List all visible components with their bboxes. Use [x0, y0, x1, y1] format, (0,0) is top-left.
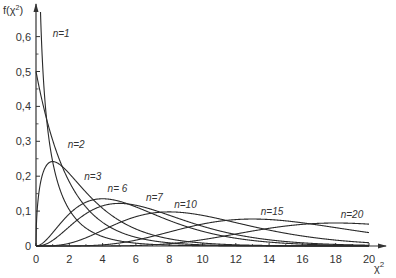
y-tick-label: 0,2 [16, 170, 31, 182]
x-axis-arrow-icon [378, 244, 387, 249]
y-tick-label: 0,1 [16, 205, 31, 217]
y-tick-label: 0,4 [16, 100, 31, 112]
y-tick-label: 0,3 [16, 135, 31, 147]
curve-label: n=10 [174, 199, 197, 210]
chi-square-chart: 0246810121416182000,10,20,30,40,50,6 n=1… [0, 0, 396, 278]
curve-label: n=2 [68, 139, 85, 150]
y-axis-arrow-icon [34, 3, 39, 12]
curve-label: n=15 [261, 206, 284, 217]
curve-label: n= 6 [108, 183, 128, 194]
curve-n-6 [36, 199, 369, 246]
x-tick-label: 4 [100, 253, 106, 265]
y-tick-label: 0 [25, 240, 31, 252]
y-axis-title: f(χ2) [3, 4, 23, 16]
x-tick-label: 14 [263, 253, 275, 265]
x-tick-label: 18 [330, 253, 342, 265]
curve-label: n=1 [53, 28, 70, 39]
y-tick-label: 0,6 [16, 31, 31, 43]
x-tick-label: 2 [66, 253, 72, 265]
x-tick-label: 16 [296, 253, 308, 265]
curve-labels: n=1n=2n=3n= 6n=7n=10n=15n=20 [53, 28, 364, 220]
curve-n-2 [36, 72, 369, 246]
y-tick-label: 0,5 [16, 66, 31, 78]
x-tick-label: 8 [166, 253, 172, 265]
curves [36, 12, 369, 246]
x-tick-label: 10 [196, 253, 208, 265]
x-tick-label: 12 [230, 253, 242, 265]
curve-label: n=7 [146, 192, 163, 203]
x-tick-label: 0 [33, 253, 39, 265]
x-axis-title: χ2 [374, 260, 385, 274]
curve-label: n=3 [84, 171, 101, 182]
curve-n-10 [36, 212, 369, 246]
x-tick-label: 6 [133, 253, 139, 265]
curve-label: n=20 [341, 209, 364, 220]
